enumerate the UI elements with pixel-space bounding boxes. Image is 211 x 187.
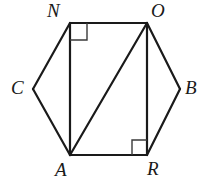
vertex-label-o: O <box>151 1 165 20</box>
vertex-label-a: A <box>55 160 67 179</box>
vertex-label-r: R <box>147 159 159 178</box>
vertex-label-c: C <box>11 78 24 97</box>
figure-canvas <box>0 0 211 187</box>
vertex-label-n: N <box>47 1 60 20</box>
geometry-figure: N O C B A R <box>0 0 211 187</box>
vertex-label-b: B <box>185 78 197 97</box>
